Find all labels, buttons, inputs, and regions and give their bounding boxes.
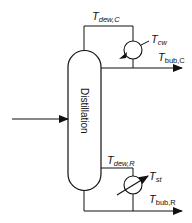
distillation-diagram: Distillation Tdew,C Tcw Tbub,C Tdew,R Ts… <box>0 0 192 223</box>
condenser-coolant-icon <box>141 41 149 45</box>
column-label: Distillation <box>79 88 90 134</box>
label-t-bub-c: Tbub,C <box>158 51 185 65</box>
condenser-coolant-arrowhead <box>119 52 127 59</box>
label-t-dew-r: Tdew,R <box>107 154 135 168</box>
label-t-cw: Tcw <box>151 33 167 47</box>
reboiler-return-line <box>101 168 133 176</box>
label-t-bub-r: Tbub,R <box>149 193 176 207</box>
label-t-st: Tst <box>149 170 162 184</box>
label-t-dew-c: Tdew,C <box>92 10 120 24</box>
condenser <box>124 41 142 59</box>
